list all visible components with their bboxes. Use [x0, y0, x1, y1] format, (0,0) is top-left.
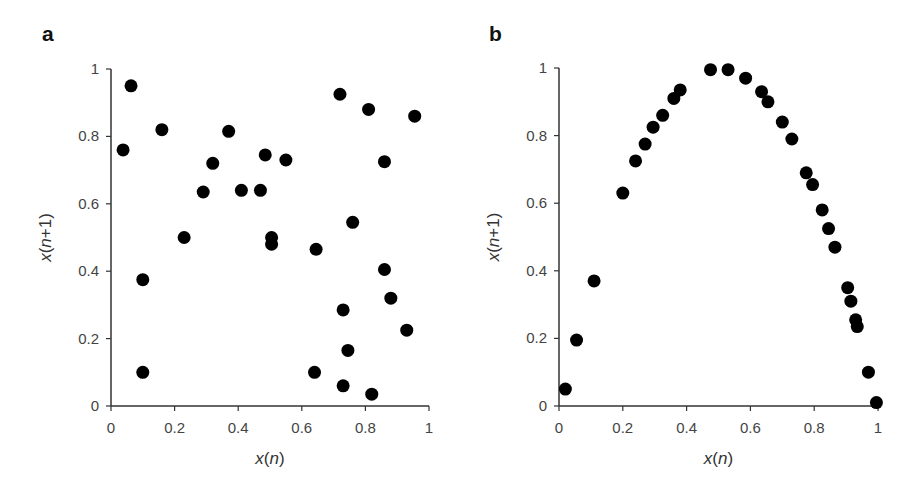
data-point — [822, 222, 835, 235]
data-point — [800, 166, 813, 179]
data-points — [117, 79, 422, 400]
x-tick-label: 0.4 — [228, 419, 249, 436]
data-point — [197, 186, 210, 199]
y-tick-label: 0 — [91, 397, 99, 414]
data-point — [222, 125, 235, 138]
data-point — [656, 109, 669, 122]
data-point — [806, 178, 819, 191]
data-point — [265, 238, 278, 251]
data-point — [851, 320, 864, 333]
y-tick-label: 0.8 — [78, 127, 99, 144]
data-point — [259, 148, 272, 161]
data-point — [629, 154, 642, 167]
y-tick-label: 0.2 — [526, 329, 547, 346]
x-tick-label: 1 — [425, 419, 433, 436]
data-point — [408, 110, 421, 123]
data-point — [341, 344, 354, 357]
x-tick-label: 0.2 — [612, 419, 633, 436]
data-point — [333, 88, 346, 101]
data-point — [704, 63, 717, 76]
x-axis-title: x(n) — [703, 449, 733, 468]
data-point — [378, 263, 391, 276]
data-point — [639, 138, 652, 151]
x-tick-label: 0.8 — [355, 419, 376, 436]
data-point — [337, 303, 350, 316]
scatter-plot-b: 00.20.40.60.8100.20.40.60.81x(n)x(n+1) — [460, 0, 915, 500]
data-point — [588, 274, 601, 287]
scatter-plot-a: 00.20.40.60.8100.20.40.60.81x(n)x(n+1) — [0, 0, 460, 500]
data-point — [870, 396, 883, 409]
data-point — [310, 243, 323, 256]
data-point — [761, 95, 774, 108]
y-axis-title: x(n+1) — [36, 213, 55, 263]
axes: 00.20.40.60.8100.20.40.60.81 — [78, 60, 433, 436]
data-point — [235, 184, 248, 197]
data-point — [178, 231, 191, 244]
data-point — [828, 241, 841, 254]
data-point — [136, 366, 149, 379]
data-point — [117, 143, 130, 156]
data-point — [862, 366, 875, 379]
data-point — [384, 292, 397, 305]
data-point — [308, 366, 321, 379]
x-tick-label: 0.2 — [164, 419, 185, 436]
data-point — [841, 281, 854, 294]
data-point — [365, 388, 378, 401]
y-tick-label: 0.4 — [526, 262, 547, 279]
data-point — [125, 79, 138, 92]
y-tick-label: 0 — [539, 397, 547, 414]
y-tick-label: 1 — [91, 60, 99, 77]
data-point — [279, 153, 292, 166]
y-tick-label: 0.4 — [78, 262, 99, 279]
x-tick-label: 0.4 — [676, 419, 697, 436]
data-point — [816, 203, 829, 216]
data-point — [785, 132, 798, 145]
x-axis-title: x(n) — [254, 449, 284, 468]
data-point — [647, 121, 660, 134]
data-point — [206, 157, 219, 170]
data-point — [559, 383, 572, 396]
data-point — [155, 123, 168, 136]
y-tick-label: 0.2 — [78, 330, 99, 347]
data-point — [844, 295, 857, 308]
y-tick-label: 1 — [539, 59, 547, 76]
x-tick-label: 0.6 — [740, 419, 761, 436]
data-point — [337, 379, 350, 392]
data-point — [254, 184, 267, 197]
x-tick-label: 0 — [555, 419, 563, 436]
data-point — [362, 103, 375, 116]
data-point — [776, 116, 789, 129]
x-tick-label: 0 — [107, 419, 115, 436]
y-axis-title: x(n+1) — [484, 213, 503, 263]
data-point — [400, 324, 413, 337]
y-tick-label: 0.8 — [526, 127, 547, 144]
x-tick-label: 0.6 — [291, 419, 312, 436]
data-point — [378, 155, 391, 168]
data-point — [346, 216, 359, 229]
data-point — [616, 187, 629, 200]
data-point — [570, 334, 583, 347]
data-point — [739, 72, 752, 85]
x-tick-label: 1 — [874, 419, 882, 436]
data-point — [722, 63, 735, 76]
data-points — [559, 63, 883, 409]
y-tick-label: 0.6 — [526, 194, 547, 211]
x-tick-label: 0.8 — [804, 419, 825, 436]
data-point — [674, 83, 687, 96]
data-point — [136, 273, 149, 286]
y-tick-label: 0.6 — [78, 195, 99, 212]
